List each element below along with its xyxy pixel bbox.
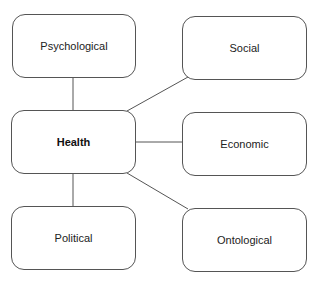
node-political: Political (11, 206, 136, 270)
node-label: Psychological (40, 40, 107, 52)
node-health: Health (11, 110, 136, 174)
node-psychological: Psychological (12, 14, 136, 78)
node-label: Ontological (217, 234, 272, 246)
node-social: Social (182, 16, 307, 80)
edge-health-ontological (127, 173, 188, 209)
edge-health-social (127, 77, 188, 111)
node-label: Political (55, 232, 93, 244)
node-label: Economic (220, 138, 268, 150)
node-ontological: Ontological (182, 208, 307, 272)
node-label: Health (57, 136, 91, 148)
node-label: Social (230, 42, 260, 54)
node-economic: Economic (182, 112, 307, 176)
